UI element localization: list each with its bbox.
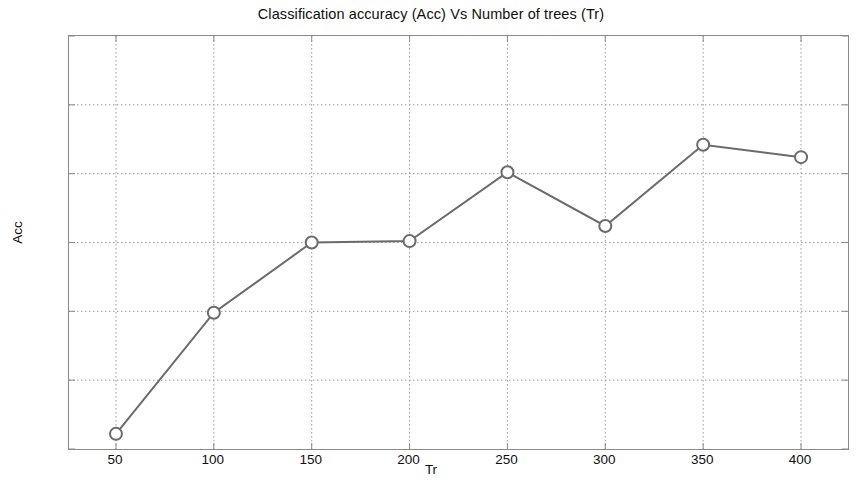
data-point-marker [599, 220, 611, 232]
chart-title: Classification accuracy (Acc) Vs Number … [0, 6, 862, 22]
data-point-marker [110, 428, 122, 440]
data-point-marker [795, 151, 807, 163]
y-axis-label: Acc [10, 203, 25, 263]
x-axis-label: Tr [0, 462, 862, 477]
data-point-markers [110, 139, 807, 440]
data-point-marker [208, 307, 220, 319]
data-point-marker [306, 237, 318, 249]
plot-area [68, 35, 849, 450]
line-chart-svg [69, 36, 848, 449]
chart-figure: Classification accuracy (Acc) Vs Number … [0, 0, 862, 485]
data-point-marker [697, 139, 709, 151]
data-point-marker [404, 235, 416, 247]
data-point-marker [501, 166, 513, 178]
grid-lines [69, 36, 848, 449]
data-line-series-acc [116, 145, 801, 434]
series-polyline [116, 145, 801, 434]
